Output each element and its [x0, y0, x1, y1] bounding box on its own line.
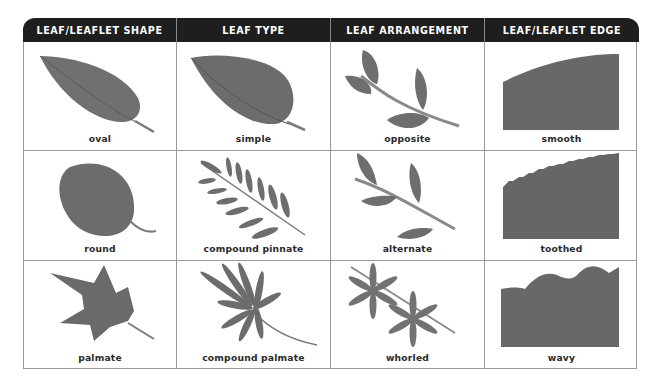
cell-label: opposite: [331, 133, 484, 144]
table-body: oval simple opposite smooth: [24, 42, 636, 368]
cell-label: compound palmate: [177, 352, 330, 363]
leaf-characteristics-table: LEAF/LEAFLET SHAPE LEAF TYPE LEAF ARRANG…: [23, 18, 637, 369]
cell-label: wavy: [485, 352, 638, 363]
cell-label: alternate: [331, 243, 484, 254]
table-cell-opposite: opposite: [331, 42, 484, 150]
cell-label: oval: [24, 133, 176, 144]
table-cell-compound-pinnate: compound pinnate: [177, 151, 330, 260]
header-leaf-arrangement: LEAF ARRANGEMENT: [330, 18, 484, 42]
table-header: LEAF/LEAFLET SHAPE LEAF TYPE LEAF ARRANG…: [23, 18, 639, 42]
table-cell-smooth: smooth: [485, 42, 638, 150]
cell-label: toothed: [485, 243, 638, 254]
cell-label: smooth: [485, 133, 638, 144]
header-leaf-type: LEAF TYPE: [176, 18, 330, 42]
table-cell-palmate: palmate: [24, 261, 176, 369]
table-cell-toothed: toothed: [485, 151, 638, 260]
table-cell-compound-palmate: compound palmate: [177, 261, 330, 369]
table-cell-simple: simple: [177, 42, 330, 150]
cell-label: round: [24, 243, 176, 254]
table-cell-wavy: wavy: [485, 261, 638, 369]
cell-label: palmate: [24, 352, 176, 363]
cell-label: compound pinnate: [177, 243, 330, 254]
cell-label: simple: [177, 133, 330, 144]
table-cell-alternate: alternate: [331, 151, 484, 260]
table-cell-oval: oval: [24, 42, 176, 150]
cell-label: whorled: [331, 352, 484, 363]
table-cell-whorled: whorled: [331, 261, 484, 369]
header-leaf-edge: LEAF/LEAFLET EDGE: [484, 18, 639, 42]
header-leaf-shape: LEAF/LEAFLET SHAPE: [23, 18, 176, 42]
table-cell-round: round: [24, 151, 176, 260]
